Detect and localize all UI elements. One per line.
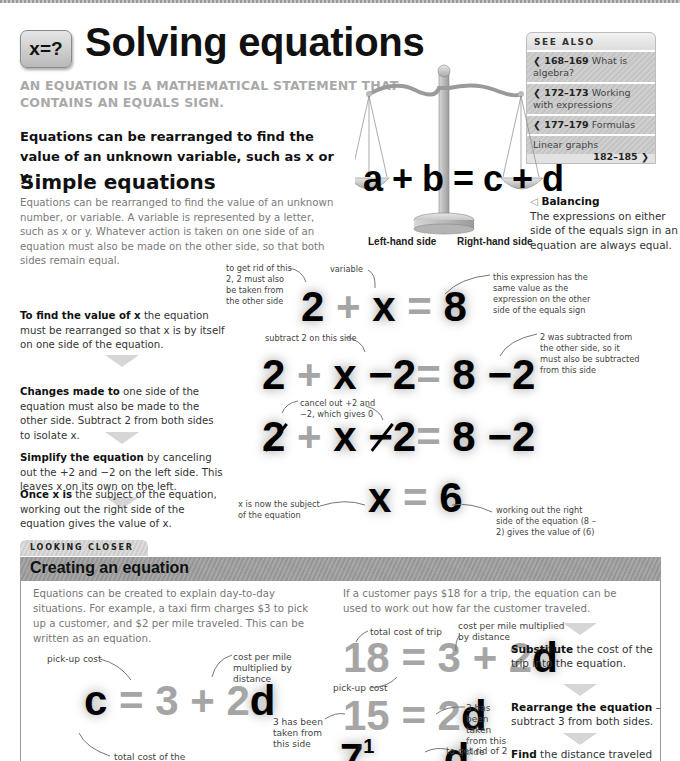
left-hand-side-label: Left-hand side xyxy=(368,236,436,247)
see-also-link[interactable]: ❮ 177–179 Formulas xyxy=(527,114,655,134)
note-subtract-this-side: subtract 2 on this side xyxy=(265,333,357,344)
equation-4: x = 6 xyxy=(368,474,463,522)
side-step-rearrange: Rearrange the equation – subtract 3 from… xyxy=(511,700,661,728)
down-triangle-icon xyxy=(563,623,597,635)
equation-3: 2 + x −2= 8 −2 xyxy=(262,413,535,461)
note-get-rid: to get rid of this 2, 2 must also be tak… xyxy=(226,263,296,307)
note-same-value: this expression has the same value as th… xyxy=(493,272,608,316)
note-three-taken-left: 3 has been taken from this side xyxy=(273,717,323,750)
note-total-trip: total cost of trip xyxy=(370,627,442,638)
note-was-subtracted: 2 was subtracted from the other side, so… xyxy=(540,332,640,376)
note-pickup-cost: pick-up cost xyxy=(47,654,102,665)
down-triangle-icon xyxy=(563,733,597,745)
note-get-rid-2: to get rid of 2 xyxy=(446,746,508,757)
side-step-find: Find the distance traveled xyxy=(511,747,661,761)
note-cost-per-mile: cost per mile multiplied by distance xyxy=(233,652,293,685)
note-working-out: working out the right side of the equati… xyxy=(496,505,601,538)
equation-2: 2 + x −2= 8 −2 xyxy=(262,351,535,399)
section-heading-simple-equations: Simple equations xyxy=(20,170,216,194)
looking-closer-left-text: Equations can be created to explain day-… xyxy=(33,586,313,646)
forward-chevron-icon: ❯ xyxy=(638,151,649,162)
down-triangle-icon xyxy=(105,432,139,444)
note-subject: x is now the subject of the equation xyxy=(238,499,328,521)
note-variable: variable xyxy=(330,264,363,275)
page-title: Solving equations xyxy=(85,20,424,65)
equation-1: 2 + x = 8 xyxy=(301,283,467,331)
looking-closer-right-text: If a customer pays $18 for a trip, the e… xyxy=(343,586,643,616)
note-cost-per-mile-2: cost per mile multiplied by distance xyxy=(458,621,568,643)
intro-paragraph: Equations can be rearranged to find the … xyxy=(20,196,338,269)
down-triangle-icon xyxy=(105,355,139,367)
note-cancel: cancel out +2 and −2, which gives 0 xyxy=(300,398,380,420)
topic-badge: x=? xyxy=(20,30,72,68)
balancing-caption: ◁ Balancing The expressions on either si… xyxy=(530,194,680,252)
cancelled-term: −2 xyxy=(368,413,416,461)
see-also-link[interactable]: ❮ 168–169 What is algebra? xyxy=(527,50,655,82)
cancelled-term: 2 xyxy=(262,413,285,461)
step-find-x: To find the value of x the equation must… xyxy=(20,309,225,353)
balance-scales-illustration xyxy=(355,62,545,247)
see-also-box: SEE ALSO ❮ 168–169 What is algebra? ❮ 17… xyxy=(526,32,656,164)
side-step-substitute: Substitute the cost of the trip into the… xyxy=(511,642,661,670)
looking-closer-tab: LOOKING CLOSER xyxy=(20,540,148,556)
see-also-heading: SEE ALSO xyxy=(527,33,655,50)
see-also-link[interactable]: Linear graphs 182–185 ❯ xyxy=(527,134,655,154)
looking-closer-title: Creating an equation xyxy=(30,559,189,577)
step-once-x-text: Once x is the subject of the equation, w… xyxy=(20,488,225,532)
left-triangle-icon: ◁ xyxy=(530,195,541,207)
top-rule xyxy=(0,0,680,3)
page-subtitle: AN EQUATION IS A MATHEMATICAL STATEMENT … xyxy=(20,77,400,111)
right-hand-side-label: Right-hand side xyxy=(457,236,533,247)
note-total-cost: total cost of the xyxy=(114,752,185,761)
see-also-link[interactable]: ❮ 172–173 Working with expressions xyxy=(527,82,655,114)
down-triangle-icon xyxy=(563,684,597,696)
